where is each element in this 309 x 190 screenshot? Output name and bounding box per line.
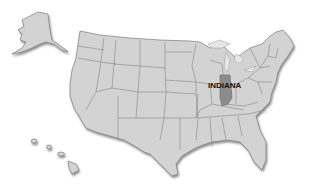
hawaii [31, 139, 79, 174]
alaska [12, 12, 68, 54]
indiana-label: INDIANA [208, 81, 241, 90]
contiguous-us [70, 30, 294, 176]
us-map: INDIANA [0, 0, 309, 190]
